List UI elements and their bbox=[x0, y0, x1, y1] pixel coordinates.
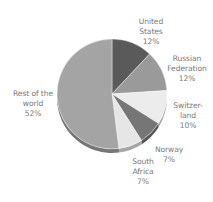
label-line: Federation bbox=[163, 64, 211, 74]
label-line: South bbox=[124, 157, 162, 167]
label-line: land bbox=[167, 111, 209, 121]
label-line: Norway bbox=[150, 145, 188, 155]
label-switzerland: Switzer- land 10% bbox=[167, 101, 209, 131]
label-south-africa: South Africa 7% bbox=[124, 157, 162, 187]
label-percent: 12% bbox=[163, 74, 211, 84]
label-percent: 7% bbox=[124, 177, 162, 187]
label-line: States bbox=[131, 27, 171, 37]
label-line: Russian bbox=[163, 54, 211, 64]
label-percent: 52% bbox=[8, 109, 58, 119]
label-line: United bbox=[131, 17, 171, 27]
label-line: Switzer- bbox=[167, 101, 209, 111]
label-rest-of-world: Rest of the world 52% bbox=[8, 89, 58, 119]
label-line: Rest of the bbox=[8, 89, 58, 99]
label-united-states: United States 12% bbox=[131, 17, 171, 47]
pie-slices bbox=[57, 39, 167, 149]
label-percent: 10% bbox=[167, 121, 209, 131]
label-line: Africa bbox=[124, 167, 162, 177]
label-percent: 12% bbox=[131, 37, 171, 47]
label-line: world bbox=[8, 99, 58, 109]
label-russian-federation: Russian Federation 12% bbox=[163, 54, 211, 84]
slice-rest-of-the-world bbox=[57, 39, 119, 149]
